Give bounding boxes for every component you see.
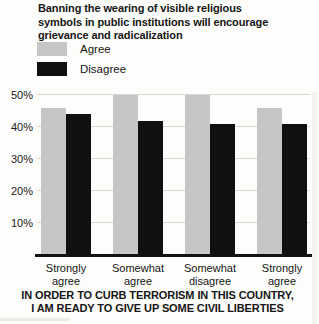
- legend-label-disagree: Disagree: [80, 63, 126, 75]
- y-tick-label: 40%: [0, 120, 33, 134]
- bar-disagree: [66, 114, 91, 255]
- bar-agree: [185, 95, 210, 255]
- legend-swatch-disagree: [37, 62, 67, 76]
- bar-disagree: [282, 124, 307, 255]
- legend-item-disagree: Disagree: [37, 62, 126, 76]
- bar-disagree: [210, 124, 235, 255]
- category-label: Strongly agree: [247, 262, 317, 288]
- category-label: Somewhat agree: [103, 262, 173, 288]
- legend-swatch-agree: [37, 42, 67, 56]
- survey-question-caption: IN ORDER TO CURB TERRORISM IN THIS COUNT…: [0, 289, 315, 315]
- bar-agree: [41, 108, 66, 255]
- bar-agree: [113, 95, 138, 255]
- bar-disagree: [138, 121, 163, 255]
- plot-area: 50%40%30%20%10%: [37, 88, 310, 255]
- bar-group: [185, 95, 235, 255]
- category-label: Somewhat disagree: [175, 262, 245, 288]
- figure: Banning the wearing of visible religious…: [0, 0, 319, 324]
- bar-agree: [257, 108, 282, 255]
- x-axis-labels: Strongly agreeSomewhat agreeSomewhat dis…: [37, 255, 310, 285]
- gridline: [37, 94, 310, 95]
- y-tick-label: 20%: [0, 184, 33, 198]
- bar-group: [113, 95, 163, 255]
- bar-group: [41, 108, 91, 255]
- y-tick-label: 30%: [0, 152, 33, 166]
- legend-item-agree: Agree: [37, 42, 126, 56]
- bar-group: [257, 108, 307, 255]
- category-label: Strongly agree: [31, 262, 101, 288]
- chart-title: Banning the wearing of visible religious…: [38, 2, 316, 43]
- legend-label-agree: Agree: [80, 43, 111, 55]
- legend: Agree Disagree: [37, 42, 126, 82]
- y-tick-label: 50%: [0, 88, 33, 102]
- y-tick-label: 10%: [0, 216, 33, 230]
- scan-artifact-right: [312, 92, 317, 324]
- scan-artifact-bottom: [0, 318, 70, 321]
